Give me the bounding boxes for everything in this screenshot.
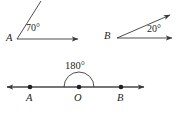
straight-angle-at-o-group (7, 72, 144, 89)
acute-angle-at-a-group (17, 1, 78, 39)
vertex-label-a: A (6, 33, 12, 44)
point-label-a: A (26, 93, 32, 104)
point-a-dot (28, 85, 33, 90)
ray-b-upper (117, 15, 170, 38)
figure-canvas (0, 0, 181, 122)
point-o-dot (77, 85, 82, 90)
angle-label-70: 70° (26, 23, 40, 33)
acute-angle-at-b-group (117, 15, 172, 38)
angle-label-180: 180° (65, 61, 85, 72)
point-label-b: B (117, 93, 123, 104)
vertex-label-b: B (104, 31, 110, 42)
point-label-o: O (74, 93, 82, 104)
geometry-figure: A 70° B 20° 180° A O B (0, 0, 181, 122)
ray-a-upper (17, 1, 41, 39)
point-b-dot (119, 85, 124, 90)
angle-label-20: 20° (147, 24, 161, 34)
